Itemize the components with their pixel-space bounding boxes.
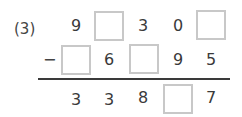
row2-blank-box-1[interactable] — [61, 45, 91, 75]
row1-digit-1: 9 — [61, 16, 91, 36]
row1-digit-3: 3 — [128, 16, 158, 36]
row1-digit-4: 0 — [163, 16, 193, 36]
row1-blank-box-5[interactable] — [196, 10, 226, 40]
subtraction-rule-line — [38, 78, 230, 80]
row2-blank-box-3[interactable] — [129, 44, 159, 74]
result-digit-1: 3 — [61, 90, 91, 110]
result-digit-2: 3 — [94, 90, 124, 110]
result-digit-3: 8 — [128, 88, 158, 108]
row2-digit-4: 9 — [163, 50, 193, 70]
minus-sign: − — [43, 50, 56, 69]
row2-digit-2: 6 — [94, 50, 124, 70]
row1-blank-box-2[interactable] — [94, 11, 124, 41]
problem-label: (3) — [14, 20, 35, 38]
result-digit-5: 7 — [196, 88, 226, 108]
result-blank-box-4[interactable] — [163, 84, 193, 114]
row2-digit-5: 5 — [196, 50, 226, 70]
